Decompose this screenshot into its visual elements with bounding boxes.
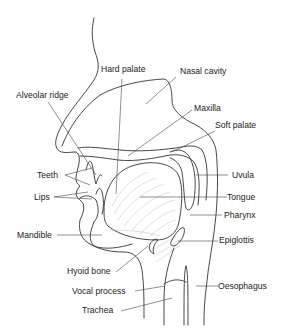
label-nasal-cavity: Nasal cavity xyxy=(180,67,226,76)
label-maxilla: Maxilla xyxy=(194,104,221,113)
lower-teeth-outline xyxy=(96,188,104,214)
hyoid-bone-outline xyxy=(149,239,158,254)
pharynx-front-wall xyxy=(164,248,174,325)
label-epiglottis: Epiglottis xyxy=(219,236,254,245)
label-alveolar-ridge: Alveolar ridge xyxy=(16,91,69,100)
label-mandible: Mandible xyxy=(17,231,52,240)
label-hyoid-bone: Hyoid bone xyxy=(67,267,110,276)
oesophagus-front-wall xyxy=(186,266,188,325)
lower-lip-outline xyxy=(80,196,98,222)
label-hard-palate: Hard palate xyxy=(101,65,145,74)
label-tongue: Tongue xyxy=(227,193,255,202)
label-oesophagus: Oesophagus xyxy=(218,282,267,291)
vocal-tract-diagram: Hard palate Nasal cavity Alveolar ridge … xyxy=(0,0,287,331)
label-pharynx: Pharynx xyxy=(224,211,256,220)
vocal-fold-outline xyxy=(164,280,186,284)
epiglottis-outline xyxy=(171,228,185,246)
upper-teeth-outline xyxy=(86,161,102,184)
label-teeth: Teeth xyxy=(37,171,58,180)
label-lips: Lips xyxy=(34,193,50,202)
label-uvula: Uvula xyxy=(232,171,254,180)
label-vocal-process: Vocal process xyxy=(72,287,126,296)
soft-palate-outline xyxy=(170,150,195,210)
oesophagus-tube xyxy=(184,266,186,325)
label-soft-palate: Soft palate xyxy=(215,121,256,130)
label-trachea: Trachea xyxy=(82,306,113,315)
